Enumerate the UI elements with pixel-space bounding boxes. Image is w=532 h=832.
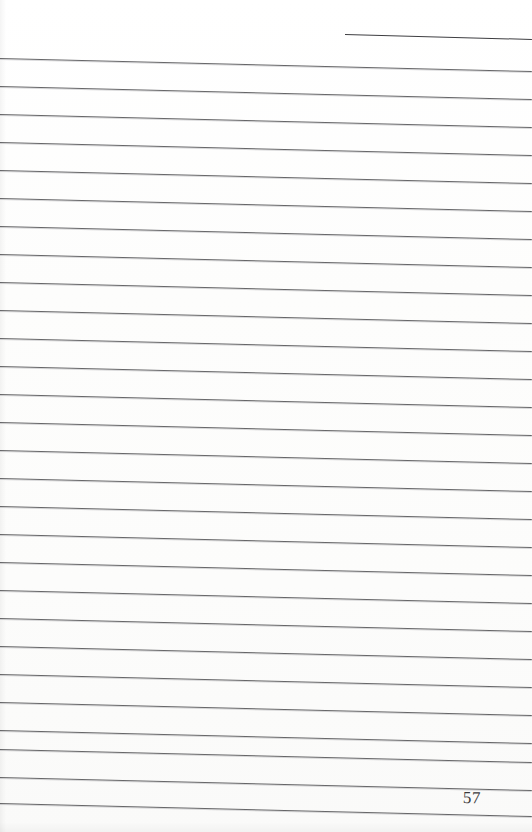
- ruled-line: [0, 777, 532, 791]
- page-number: 57: [463, 789, 481, 806]
- ruled-line: [0, 803, 532, 817]
- ruled-line: [0, 674, 532, 688]
- ruled-line: [0, 702, 532, 716]
- ruled-line: [0, 394, 532, 408]
- scanned-page: 57: [0, 0, 532, 832]
- ruled-line: [0, 478, 532, 492]
- ruled-line: [0, 422, 532, 436]
- ruled-line: [0, 506, 532, 520]
- ruled-line: [0, 198, 532, 212]
- ruled-lines-layer: [0, 0, 532, 832]
- ruled-line: [0, 254, 532, 268]
- ruled-line: [0, 86, 532, 100]
- ruled-line: [0, 226, 532, 240]
- ruled-line: [0, 310, 532, 324]
- ruled-line: [0, 366, 532, 380]
- ruled-line: [0, 562, 532, 576]
- ruled-line: [0, 534, 532, 548]
- ruled-line: [0, 282, 532, 296]
- ruled-line: [0, 450, 532, 464]
- ruled-line: [0, 114, 532, 128]
- ruled-line: [0, 58, 532, 72]
- ruled-line: [0, 338, 532, 352]
- ruled-line: [0, 618, 532, 632]
- ruled-line: [0, 590, 532, 604]
- ruled-line: [0, 170, 532, 184]
- ruled-line: [0, 646, 532, 660]
- ruled-line: [0, 749, 532, 763]
- ruled-line: [0, 142, 532, 156]
- ruled-line: [0, 730, 532, 744]
